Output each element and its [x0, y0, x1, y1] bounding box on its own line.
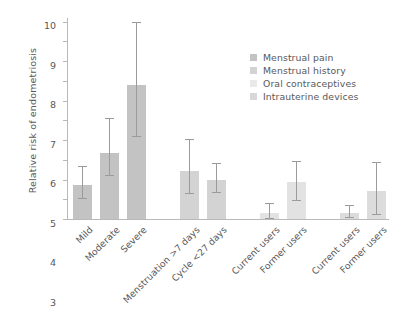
error-bar-line [82, 166, 83, 198]
legend-swatch-icon [250, 54, 257, 61]
legend-swatch-icon [250, 80, 257, 87]
error-bar [260, 203, 279, 218]
legend-item[interactable]: Menstrual pain [250, 52, 358, 64]
error-bar [287, 161, 306, 200]
y-axis-tick-mark: 7 [63, 81, 67, 82]
y-axis-tick-mark: 2 [63, 180, 67, 181]
error-bar-cap-upper [78, 166, 87, 167]
error-bar-cap-upper [372, 162, 381, 163]
error-bar-cap-lower [292, 200, 301, 201]
y-axis-tick-mark: 0.1 [63, 219, 67, 220]
legend-item[interactable]: Oral contraceptives [250, 78, 358, 90]
y-axis-tick-mark: 9 [63, 41, 67, 42]
y-axis-tick-mark: 6 [63, 101, 67, 102]
y-axis-tick-label: 4 [50, 257, 56, 268]
error-bar-line [216, 163, 217, 192]
y-axis-tick-label: 6 [50, 178, 56, 189]
error-bar-cap-upper [212, 163, 221, 164]
legend-label: Oral contraceptives [263, 78, 356, 89]
error-bar-line [296, 161, 297, 200]
error-bar-cap-lower [185, 193, 194, 194]
error-bar [180, 139, 199, 192]
y-axis-label: Relative risk of endometriosis [27, 26, 38, 216]
error-bar-line [376, 162, 377, 214]
y-axis-tick-label: 7 [50, 138, 56, 149]
error-bar [340, 205, 359, 217]
error-bar-cap-lower [105, 175, 114, 176]
error-bar-line [269, 203, 270, 218]
y-axis-tick-mark: 5 [63, 120, 67, 121]
y-axis-tick-mark: 3 [63, 160, 67, 161]
error-bar-cap-upper [105, 118, 114, 119]
y-axis-tick-mark: 4 [63, 140, 67, 141]
error-bar [127, 22, 146, 137]
x-axis-tick-label: Severe [118, 224, 149, 255]
x-axis-tick-label: Mild [73, 224, 94, 245]
plot-area: 0.112345678910 MildModerateSevereMenstru… [67, 18, 389, 222]
legend-label: Menstrual pain [263, 52, 334, 63]
y-axis-tick-mark: 8 [63, 61, 67, 62]
error-bar-cap-upper [292, 161, 301, 162]
y-axis-tick-label: 5 [50, 217, 56, 228]
error-bar [73, 166, 92, 198]
x-axis-line [64, 219, 389, 220]
y-axis-tick-mark: 10 [63, 22, 67, 23]
chart-figure: Relative risk of endometriosis 0.1123456… [0, 0, 395, 313]
chart-legend: Menstrual painMenstrual historyOral cont… [250, 52, 358, 104]
error-bar-cap-upper [265, 203, 274, 204]
y-axis-line [67, 18, 68, 220]
error-bar-line [136, 22, 137, 137]
legend-label: Intrauterine devices [263, 91, 358, 102]
legend-label: Menstrual history [263, 65, 346, 76]
error-bar [207, 163, 226, 192]
legend-item[interactable]: Intrauterine devices [250, 91, 358, 103]
y-axis-tick-label: 8 [50, 99, 56, 110]
y-axis-tick-label: 3 [50, 296, 56, 307]
error-bar [100, 118, 119, 175]
error-bar-cap-upper [345, 205, 354, 206]
y-axis-tick-label: 9 [50, 59, 56, 70]
legend-swatch-icon [250, 93, 257, 100]
legend-item[interactable]: Menstrual history [250, 65, 358, 77]
error-bar-cap-lower [345, 217, 354, 218]
error-bar-cap-upper [132, 22, 141, 23]
error-bar-line [349, 205, 350, 217]
y-axis-tick-label: 10 [44, 20, 56, 31]
error-bar-line [189, 139, 190, 192]
error-bar-cap-lower [212, 192, 221, 193]
error-bar-cap-lower [265, 218, 274, 219]
error-bar-cap-upper [185, 139, 194, 140]
legend-swatch-icon [250, 67, 257, 74]
error-bar [367, 162, 386, 214]
error-bar-line [109, 118, 110, 175]
error-bar-cap-lower [132, 136, 141, 137]
y-axis-tick-mark: 1 [63, 199, 67, 200]
error-bar-cap-lower [372, 214, 381, 215]
error-bar-cap-lower [78, 198, 87, 199]
